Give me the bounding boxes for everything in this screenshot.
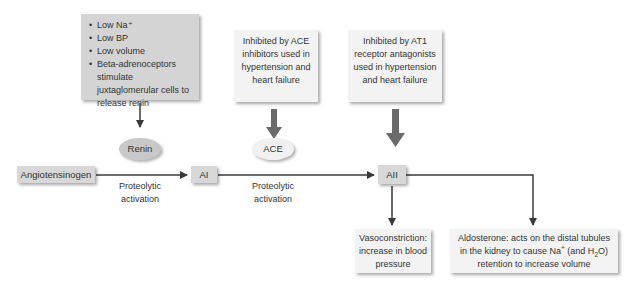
angiotensinogen-node: Angiotensinogen <box>17 166 95 183</box>
ace-label: ACE <box>263 143 283 154</box>
angiotensin-ii-label: AII <box>386 169 398 180</box>
renin-enzyme: Renin <box>119 138 161 160</box>
renin-trigger-list: Low Na⁺ Low BP Low volume Beta-adrenocep… <box>87 19 195 110</box>
aldosterone-box: Aldosterone: acts on the distal tubules … <box>450 229 618 273</box>
ace-inhibitor-box: Inhibited by ACE inhibitors used in hype… <box>234 30 318 102</box>
step1-label: Proteolytic activation <box>112 180 168 206</box>
step2-label: Proteolytic activation <box>245 180 301 206</box>
at1-antagonist-box: Inhibited by AT1 receptor antagonists us… <box>348 30 442 102</box>
vasoconstriction-text: Vasoconstriction: increase in blood pres… <box>359 233 427 269</box>
aldosterone-text-2: (and H <box>565 246 595 256</box>
ace-inhibitor-text: Inhibited by ACE inhibitors used in hype… <box>241 36 310 85</box>
angiotensin-ii-node: AII <box>378 165 406 184</box>
angiotensinogen-label: Angiotensinogen <box>21 169 92 180</box>
trigger-low-bp: Low BP <box>97 32 195 45</box>
step2-text: Proteolytic activation <box>252 181 294 204</box>
trigger-low-volume: Low volume <box>97 45 195 58</box>
ace-enzyme: ACE <box>252 138 294 160</box>
vasoconstriction-box: Vasoconstriction: increase in blood pres… <box>355 229 431 273</box>
angiotensin-i-label: AI <box>200 169 209 180</box>
at1-antagonist-text: Inhibited by AT1 receptor antagonists us… <box>353 36 436 85</box>
step1-text: Proteolytic activation <box>119 181 161 204</box>
renin-trigger-box: Low Na⁺ Low BP Low volume Beta-adrenocep… <box>81 14 199 100</box>
trigger-low-sodium: Low Na⁺ <box>97 19 195 32</box>
renin-label: Renin <box>128 143 153 154</box>
angiotensin-i-node: AI <box>191 166 217 183</box>
trigger-beta-adrenoceptors: Beta-adrenoceptors stimulate juxtaglomer… <box>97 58 195 110</box>
